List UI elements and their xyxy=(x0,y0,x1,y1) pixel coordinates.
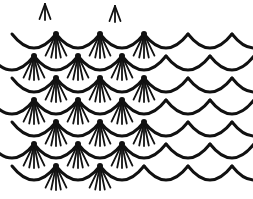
scale-arc xyxy=(210,144,253,158)
scale-arc xyxy=(232,122,253,136)
scale-arc xyxy=(232,166,253,180)
top-tuft xyxy=(110,6,121,22)
fish-scale-illustration xyxy=(0,0,253,199)
scale-arc xyxy=(210,100,253,114)
scale-arc xyxy=(232,78,253,92)
scale-arc xyxy=(144,166,188,180)
scale-arc xyxy=(188,166,232,180)
scale-arc xyxy=(210,56,253,70)
scale-arc xyxy=(188,78,232,92)
scale-arc xyxy=(166,100,210,114)
top-tuft xyxy=(40,4,51,20)
scale-arc xyxy=(188,122,232,136)
scale-arc xyxy=(166,144,210,158)
scale-arc xyxy=(166,56,210,70)
scale-arc xyxy=(232,34,253,48)
scale-arc xyxy=(188,34,232,48)
